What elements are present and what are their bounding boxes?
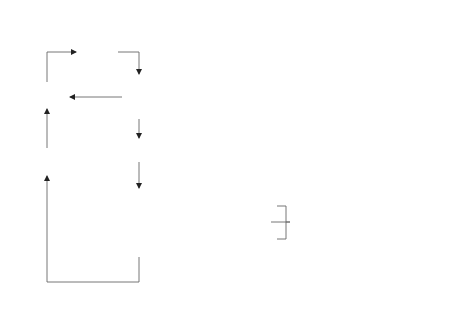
connector-layer <box>0 0 468 320</box>
